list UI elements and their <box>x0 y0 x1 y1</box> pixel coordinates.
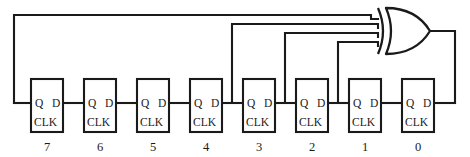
flipflop-6-d-label: D <box>105 97 113 109</box>
flipflop-5-index-label: 5 <box>150 140 156 154</box>
flipflop-1[interactable]: Q D CLK 1 <box>349 79 381 154</box>
flipflop-5-q-label: Q <box>141 97 150 109</box>
flipflop-0-index-label: 0 <box>415 140 421 154</box>
flipflop-4-q-label: Q <box>194 97 203 109</box>
flipflop-2-clk-label: CLK <box>299 116 323 128</box>
flipflop-6-q-label: Q <box>88 97 97 109</box>
circuit-canvas: Q D CLK 7 Q D CLK 6 Q D CLK 5 Q D CLK 4 <box>0 0 470 157</box>
flipflop-7[interactable]: Q D CLK 7 <box>31 79 63 154</box>
flipflop-6-clk-label: CLK <box>87 116 111 128</box>
flipflop-3-q-label: Q <box>247 97 256 109</box>
flipflop-3[interactable]: Q D CLK 3 <box>243 79 275 154</box>
xor-gate-back-arc <box>378 8 383 54</box>
flipflop-1-clk-label: CLK <box>352 116 376 128</box>
flipflop-1-d-label: D <box>370 97 378 109</box>
flipflop-4-d-label: D <box>211 97 219 109</box>
flipflop-0-q-label: Q <box>406 97 415 109</box>
flipflop-3-clk-label: CLK <box>246 116 270 128</box>
lfsr-circuit-diagram: Q D CLK 7 Q D CLK 6 Q D CLK 5 Q D CLK 4 <box>0 0 470 157</box>
flipflop-2-q-label: Q <box>300 97 309 109</box>
flipflop-7-index-label: 7 <box>44 140 50 154</box>
flipflop-7-q-label: Q <box>35 97 44 109</box>
flipflop-3-d-label: D <box>264 97 272 109</box>
flipflop-0[interactable]: Q D CLK 0 <box>402 79 434 154</box>
xor-gate[interactable] <box>378 8 430 54</box>
flipflop-3-index-label: 3 <box>256 140 262 154</box>
xor-gate-body <box>386 8 430 54</box>
flipflop-6-index-label: 6 <box>97 140 103 154</box>
flipflop-2-index-label: 2 <box>309 140 315 154</box>
flipflop-4[interactable]: Q D CLK 4 <box>190 79 222 154</box>
flipflop-0-clk-label: CLK <box>405 116 429 128</box>
flipflop-5[interactable]: Q D CLK 5 <box>137 79 169 154</box>
flipflop-2[interactable]: Q D CLK 2 <box>296 79 328 154</box>
flipflop-7-clk-label: CLK <box>34 116 58 128</box>
flipflop-1-q-label: Q <box>353 97 362 109</box>
flipflop-2-d-label: D <box>317 97 325 109</box>
flipflop-7-d-label: D <box>52 97 60 109</box>
flipflop-4-clk-label: CLK <box>193 116 217 128</box>
flipflop-6[interactable]: Q D CLK 6 <box>84 79 116 154</box>
flipflop-0-d-label: D <box>423 97 431 109</box>
flipflop-4-index-label: 4 <box>203 140 210 154</box>
flipflop-1-index-label: 1 <box>362 140 368 154</box>
flipflop-5-clk-label: CLK <box>140 116 164 128</box>
flipflop-5-d-label: D <box>158 97 166 109</box>
